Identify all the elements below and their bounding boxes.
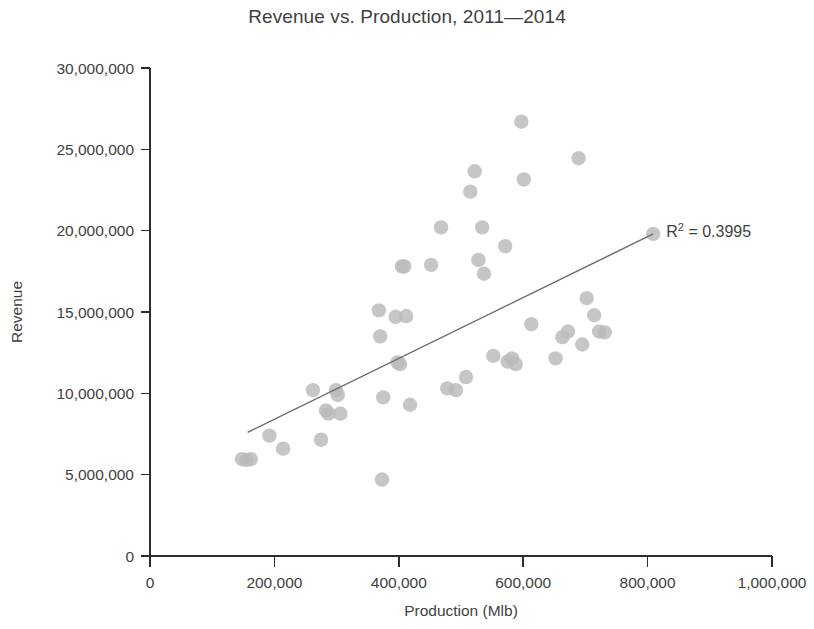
data-point (397, 259, 411, 273)
data-point (424, 258, 438, 272)
x-tick-label: 600,000 (495, 574, 551, 591)
x-tick-label: 400,000 (371, 574, 427, 591)
x-tick-label: 200,000 (246, 574, 302, 591)
data-point (276, 441, 290, 455)
data-point (373, 329, 387, 343)
y-tick-label: 20,000,000 (56, 222, 134, 239)
y-tick-label: 0 (125, 548, 134, 565)
data-point (477, 267, 491, 281)
data-points-group (235, 114, 661, 486)
data-point (403, 398, 417, 412)
scatter-chart-figure: Revenue vs. Production, 2011—2014 05,000… (0, 0, 814, 629)
data-point (548, 351, 562, 365)
r-squared-annotation: R2 = 0.3995 (666, 221, 751, 240)
data-point (434, 220, 448, 234)
data-point (399, 309, 413, 323)
data-point (372, 303, 386, 317)
data-point (467, 164, 481, 178)
data-point (524, 317, 538, 331)
y-tick-label: 15,000,000 (56, 304, 134, 321)
data-point (333, 406, 347, 420)
data-point (471, 253, 485, 267)
data-point (244, 452, 258, 466)
axis-labels-group: R2 = 0.3995Production (Mlb)Revenue (8, 221, 751, 619)
data-point (579, 291, 593, 305)
data-point (375, 472, 389, 486)
y-tick-label: 30,000,000 (56, 60, 134, 77)
data-point (509, 357, 523, 371)
y-axis: 05,000,00010,000,00015,000,00020,000,000… (56, 60, 150, 565)
x-tick-label: 1,000,000 (738, 574, 807, 591)
data-point (498, 239, 512, 253)
data-point (314, 432, 328, 446)
data-point (517, 172, 531, 186)
data-point (575, 337, 589, 351)
data-point (561, 324, 575, 338)
data-point (463, 184, 477, 198)
data-point (514, 114, 528, 128)
x-tick-label: 0 (146, 574, 155, 591)
plot-area: 05,000,00010,000,00015,000,00020,000,000… (0, 0, 814, 629)
y-axis-title: Revenue (8, 281, 25, 343)
data-point (587, 308, 601, 322)
y-tick-label: 5,000,000 (65, 466, 134, 483)
data-point (475, 220, 489, 234)
data-point (306, 383, 320, 397)
x-tick-label: 800,000 (620, 574, 676, 591)
x-axis-title: Production (Mlb) (404, 602, 518, 619)
x-axis: 0200,000400,000600,000800,0001,000,000 (146, 556, 807, 591)
data-point (393, 357, 407, 371)
data-point (486, 349, 500, 363)
data-point (597, 325, 611, 339)
data-point (571, 151, 585, 165)
data-point (449, 383, 463, 397)
data-point (376, 390, 390, 404)
data-point (459, 370, 473, 384)
y-tick-label: 25,000,000 (56, 141, 134, 158)
data-point (262, 428, 276, 442)
y-tick-label: 10,000,000 (56, 385, 134, 402)
